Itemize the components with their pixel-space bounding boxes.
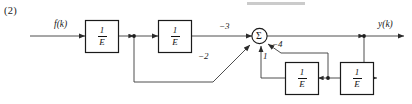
block-forward-1-transfer-function: 1 E — [86, 21, 118, 52]
junction-dot-feedback — [326, 76, 330, 80]
figure-root: (2) f(k) y(k) −3 −2 1 −4 Σ 1 E 1 E 1 E 1… — [0, 0, 412, 104]
gain-feedback-inner-label: 1 — [263, 52, 268, 61]
block-feedback-1-numerator: 1 — [298, 68, 307, 78]
summing-junction-symbol: Σ — [256, 31, 262, 41]
problem-number: (2) — [4, 6, 17, 17]
block-feedback-2-denominator: E — [352, 80, 362, 90]
block-feedback-2-numerator: 1 — [353, 68, 362, 78]
gain-forward-path-label: −3 — [219, 22, 230, 31]
junction-dot-output — [362, 34, 366, 38]
wire-ff-diagonal — [213, 45, 250, 82]
gain-input-feedforward-label: −2 — [198, 52, 209, 61]
block-feedback-1-denominator: E — [297, 80, 307, 90]
block-forward-2-denominator: E — [170, 38, 180, 48]
block-feedback-2-transfer-function: 1 E — [341, 63, 373, 94]
input-signal-label: f(k) — [54, 20, 67, 30]
junction-dot-input — [132, 34, 136, 38]
gain-feedback-outer-label: −4 — [272, 40, 283, 49]
block-forward-1-denominator: E — [97, 38, 107, 48]
block-forward-2-numerator: 1 — [171, 26, 180, 36]
block-forward-1-numerator: 1 — [98, 26, 107, 36]
block-feedback-1-transfer-function: 1 E — [286, 63, 318, 94]
block-forward-2-transfer-function: 1 E — [159, 21, 191, 52]
output-signal-label: y(k) — [378, 20, 393, 30]
